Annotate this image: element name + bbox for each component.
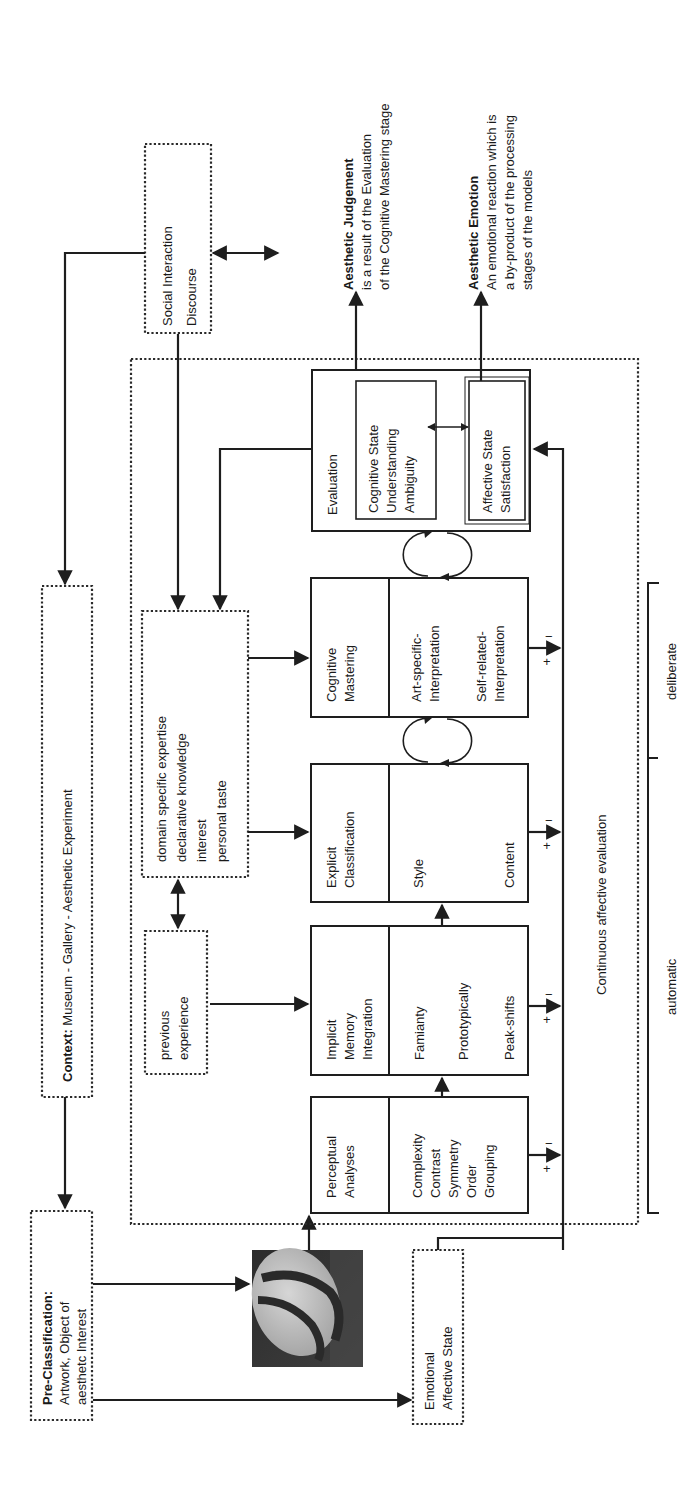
cognitive-item-4: Interpretation — [492, 625, 507, 702]
social-to-context-arrow — [65, 253, 145, 584]
domain-knowledge-box: domain specific expertise declarative kn… — [142, 611, 248, 877]
automatic-label: automatic — [664, 958, 679, 1015]
stage-implicit-memory-integration: Implicit Memory Integration Famianty Pro… — [311, 926, 528, 1075]
cognitive-state-line-1: Cognitive State — [366, 425, 381, 513]
aesthetic-emotion-line-1: An emotional reaction which is — [484, 114, 499, 290]
cognitive-item-1: Art-specific- — [409, 633, 424, 702]
implicit-item-1: Famianty — [412, 1006, 427, 1060]
stage-evaluation: Evaluation Cognitive State Understanding… — [312, 370, 530, 531]
feedback-explicit: + − — [528, 813, 560, 853]
evaluation-to-domain-feedback-arrow — [220, 449, 312, 609]
implicit-title-2: Memory — [342, 1013, 357, 1060]
domain-line-2: declarative knowledge — [174, 733, 189, 862]
implicit-title-3: Integration — [360, 999, 375, 1060]
cognitive-title-1: Cognitive — [324, 648, 339, 702]
plus-sign: + — [543, 654, 551, 669]
explicit-item-style: Style — [411, 859, 426, 888]
emotional-affective-state-box: Emotional Affective State — [413, 1250, 463, 1424]
continuous-affective-evaluation-label: Continuous affective evaluation — [594, 815, 609, 995]
evaluation-title: Evaluation — [325, 454, 340, 515]
affective-state-line-1: Affective State — [480, 429, 495, 513]
loop-cognitive-evaluation — [403, 530, 471, 581]
domain-line-4: personal taste — [214, 780, 229, 862]
emotional-line-1: Emotional — [422, 1352, 437, 1410]
implicit-item-2: Prototypically — [456, 982, 471, 1060]
aesthetic-judgement-output: Aesthetic Judgement is a result of the E… — [341, 104, 392, 290]
plus-sign: + — [543, 838, 551, 853]
perceptual-title-1: Perceptual — [324, 1136, 339, 1198]
affective-state-box: Affective State Satisfaction — [465, 377, 529, 524]
feedback-perceptual: + − — [528, 1136, 560, 1176]
feedback-implicit: + − — [528, 987, 560, 1027]
domain-line-3: interest — [194, 819, 209, 862]
cognitive-state-line-3: Ambiguity — [402, 455, 417, 513]
context-box: Context: Museum - Gallery - Aesthetic Ex… — [42, 586, 92, 1097]
perceptual-item-4: Order — [464, 1164, 479, 1198]
cognitive-state-line-2: Understanding — [384, 428, 399, 513]
affective-state-line-2: Satisfaction — [498, 446, 513, 513]
aesthetic-emotion-line-3: stages of the models — [520, 170, 535, 290]
pre-classification-line-1: Artwork, Object of — [57, 1301, 72, 1405]
pre-classification-title: Pre-Classification: — [40, 1291, 55, 1405]
minus-sign: − — [545, 1136, 553, 1151]
social-interaction-box: Social Interaction Discourse — [145, 144, 211, 333]
plus-sign: + — [543, 1161, 551, 1176]
aesthetic-emotion-line-2: a by-product of the processing — [502, 115, 517, 290]
perceptual-item-3: Symmetry — [446, 1139, 461, 1198]
perceptual-item-1: Complexity — [410, 1133, 425, 1198]
cognitive-item-3: Self-related- — [474, 631, 489, 702]
implicit-item-3: Peak-shifts — [502, 995, 517, 1060]
previous-experience-line-2: experience — [176, 996, 191, 1060]
pre-classification-line-2: aesthetc Interest — [74, 1309, 89, 1405]
perceptual-title-2: Analyses — [342, 1145, 357, 1198]
context-label: Context: Museum - Gallery - Aesthetic Ex… — [60, 789, 75, 1082]
emotional-to-continuous-connector — [438, 1238, 563, 1250]
deliberate-label: deliberate — [664, 643, 679, 700]
pre-classification-box: Pre-Classification: Artwork, Object of a… — [31, 1211, 92, 1420]
stage-cognitive-mastering: Cognitive Mastering Art-specific- Interp… — [311, 578, 528, 717]
stage-perceptual-analyses: Perceptual Analyses Complexity Contrast … — [311, 1097, 528, 1213]
stage-explicit-classification: Explicit Classification Style Content — [311, 764, 528, 902]
social-line-2: Discourse — [184, 268, 199, 326]
artwork-image — [238, 1236, 363, 1367]
minus-sign: − — [545, 987, 553, 1002]
processing-mode-bracket: deliberate automatic — [648, 583, 679, 1213]
aesthetic-judgement-line-1: is a result of the Evaluation — [359, 134, 374, 290]
social-line-1: Social Interaction — [160, 226, 175, 326]
emotional-line-2: Affective State — [440, 1326, 455, 1410]
aesthetic-emotion-title: Aesthetic Emotion — [466, 176, 481, 290]
minus-sign: − — [545, 629, 553, 644]
previous-experience-box: previous experience — [145, 931, 207, 1074]
cognitive-state-box: Cognitive State Understanding Ambiguity — [356, 381, 436, 519]
explicit-item-content: Content — [502, 842, 517, 888]
domain-line-1: domain specific expertise — [154, 716, 169, 862]
minus-sign: − — [545, 813, 553, 828]
plus-sign: + — [543, 1012, 551, 1027]
perceptual-item-5: Grouping — [482, 1145, 497, 1198]
aesthetic-judgement-line-2: of the Cognitive Mastering stage — [377, 104, 392, 290]
loop-explicit-cognitive — [403, 716, 471, 767]
cognitive-item-2: Interpretation — [427, 625, 442, 702]
aesthetic-emotion-output: Aesthetic Emotion An emotional reaction … — [466, 114, 535, 290]
perceptual-item-2: Contrast — [428, 1148, 443, 1198]
previous-experience-line-1: previous — [157, 1010, 172, 1060]
feedback-cognitive: + − — [528, 629, 560, 669]
implicit-title-1: Implicit — [324, 1019, 339, 1060]
cognitive-title-2: Mastering — [342, 645, 357, 702]
explicit-title-1: Explicit — [324, 846, 339, 888]
explicit-title-2: Classification — [342, 811, 357, 888]
aesthetic-judgement-title: Aesthetic Judgement — [341, 158, 356, 290]
aesthetic-model-diagram: Social Interaction Discourse Context: Mu… — [0, 0, 689, 1492]
